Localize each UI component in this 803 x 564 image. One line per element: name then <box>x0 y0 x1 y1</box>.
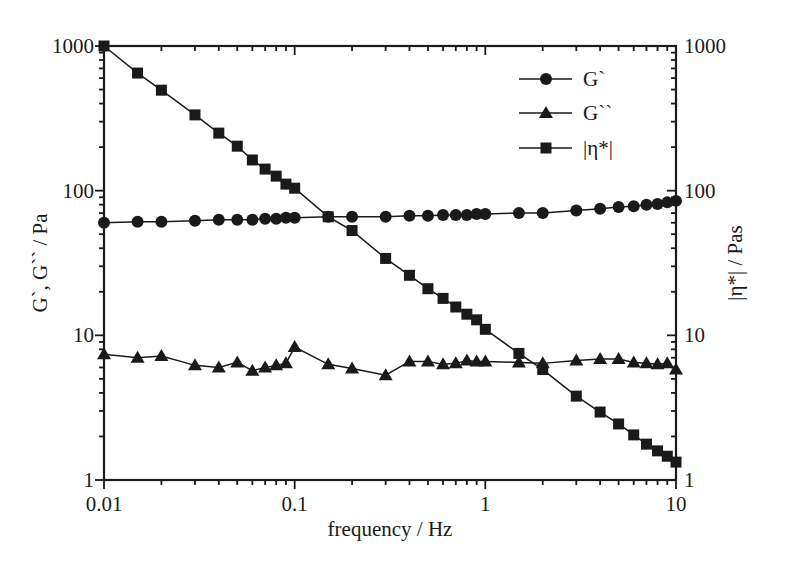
circle-marker-icon <box>346 211 358 223</box>
legend-label: |η*| <box>583 136 613 160</box>
y-tick-label-left: 100 <box>63 179 95 203</box>
circle-marker-icon <box>540 73 552 85</box>
circle-marker-icon <box>403 210 415 222</box>
circle-marker-icon <box>479 208 491 220</box>
triangle-marker-icon <box>402 354 416 366</box>
square-marker-icon <box>347 225 358 236</box>
circle-marker-icon <box>437 209 449 221</box>
square-marker-icon <box>189 109 200 120</box>
square-marker-icon <box>628 429 639 440</box>
square-marker-icon <box>461 309 472 320</box>
x-tick-label: 0.1 <box>282 492 308 516</box>
square-marker-icon <box>260 164 271 175</box>
square-marker-icon <box>99 41 110 52</box>
circle-marker-icon <box>570 204 582 216</box>
square-marker-icon <box>571 391 582 402</box>
y-tick-label-right: 1000 <box>684 34 726 58</box>
circle-marker-icon <box>289 212 301 224</box>
triangle-marker-icon <box>288 340 302 352</box>
circle-marker-icon <box>246 214 258 226</box>
x-tick-label: 10 <box>666 492 687 516</box>
square-marker-icon <box>471 314 482 325</box>
circle-marker-icon <box>213 214 225 226</box>
square-marker-icon <box>289 183 300 194</box>
square-marker-icon <box>595 407 606 418</box>
rheology-chart: 0.010.111011010010001101001000 G`G``|η*|… <box>0 0 803 564</box>
axis-tick-labels: 0.010.111011010010001101001000 <box>52 34 726 516</box>
legend-item: G`` <box>519 101 612 125</box>
y-tick-label-right: 100 <box>684 179 716 203</box>
triangle-marker-icon <box>279 356 293 368</box>
square-marker-icon <box>480 324 491 335</box>
circle-marker-icon <box>537 207 549 219</box>
y-tick-label-left: 1 <box>84 468 95 492</box>
square-marker-icon <box>438 293 449 304</box>
triangle-marker-icon <box>421 354 435 366</box>
circle-marker-icon <box>628 200 640 212</box>
legend-item: G` <box>519 67 605 91</box>
square-marker-icon <box>422 283 433 294</box>
y-tick-label-left: 10 <box>73 323 94 347</box>
square-marker-icon <box>513 348 524 359</box>
square-marker-icon <box>450 301 461 312</box>
square-marker-icon <box>537 364 548 375</box>
circle-marker-icon <box>450 209 462 221</box>
y-axis-title-right: |η*| / Pas <box>723 225 747 300</box>
y-tick-label-left: 1000 <box>52 34 94 58</box>
square-marker-icon <box>641 439 652 450</box>
square-marker-icon <box>232 141 243 152</box>
circle-marker-icon <box>613 201 625 213</box>
circle-marker-icon <box>189 215 201 227</box>
triangle-marker-icon <box>612 352 626 364</box>
square-marker-icon <box>541 143 552 154</box>
square-marker-icon <box>404 270 415 281</box>
legend: G`G``|η*| <box>519 67 613 160</box>
x-tick-label: 1 <box>480 492 491 516</box>
square-marker-icon <box>213 128 224 139</box>
circle-marker-icon <box>380 211 392 223</box>
circle-marker-icon <box>422 210 434 222</box>
circle-marker-icon <box>231 214 243 226</box>
circle-marker-icon <box>640 199 652 211</box>
x-axis-title: frequency / Hz <box>328 517 453 541</box>
triangle-marker-icon <box>230 355 244 367</box>
square-marker-icon <box>132 68 143 79</box>
square-marker-icon <box>671 457 682 468</box>
triangle-marker-icon <box>593 352 607 364</box>
circle-marker-icon <box>155 216 167 228</box>
series-g-prime <box>98 195 682 229</box>
y-axis-title-left: G`, G`` / Pa <box>28 213 52 313</box>
triangle-marker-icon <box>154 349 168 361</box>
triangle-marker-icon <box>478 354 492 366</box>
legend-label: G`` <box>583 101 612 125</box>
circle-marker-icon <box>594 203 606 215</box>
triangle-marker-icon <box>321 357 335 369</box>
circle-marker-icon <box>98 217 110 229</box>
y-tick-label-right: 10 <box>684 323 705 347</box>
x-tick-label: 0.01 <box>86 492 123 516</box>
square-marker-icon <box>156 85 167 96</box>
square-marker-icon <box>271 171 282 182</box>
triangle-marker-icon <box>539 106 553 118</box>
circle-marker-icon <box>670 195 682 207</box>
circle-marker-icon <box>259 213 271 225</box>
square-marker-icon <box>613 418 624 429</box>
legend-item: |η*| <box>519 136 613 160</box>
circle-marker-icon <box>132 216 144 228</box>
series-line <box>104 347 676 375</box>
square-marker-icon <box>652 445 663 456</box>
circle-marker-icon <box>513 207 525 219</box>
series-g-double-prime <box>97 340 683 380</box>
square-marker-icon <box>323 211 334 222</box>
legend-label: G` <box>583 67 605 91</box>
square-marker-icon <box>247 154 258 165</box>
square-marker-icon <box>380 253 391 264</box>
y-tick-label-right: 1 <box>684 468 695 492</box>
